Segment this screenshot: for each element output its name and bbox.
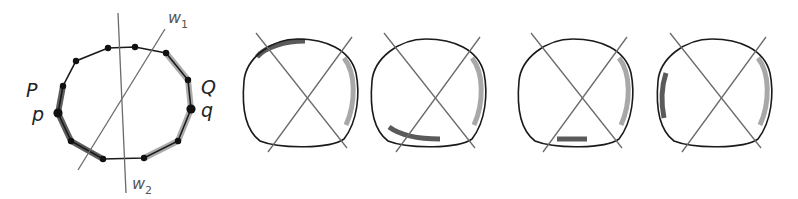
cross-line-a bbox=[670, 33, 761, 148]
vertex bbox=[100, 156, 106, 162]
arc-light bbox=[472, 58, 481, 125]
blob-outline bbox=[518, 39, 632, 147]
blob-outline bbox=[371, 39, 485, 147]
cross-line-b bbox=[268, 37, 352, 152]
panel-4 bbox=[657, 33, 771, 152]
line-w1 bbox=[78, 29, 165, 170]
vertex-q bbox=[186, 104, 195, 113]
arc-dark bbox=[662, 73, 666, 118]
cross-line-b bbox=[396, 37, 480, 152]
label-p: p bbox=[31, 103, 44, 125]
vertex bbox=[141, 155, 147, 161]
label-P: P bbox=[26, 79, 38, 101]
arc-light bbox=[619, 58, 628, 125]
label-w1: w bbox=[168, 8, 182, 27]
panel-3 bbox=[518, 33, 632, 152]
vertex bbox=[185, 77, 191, 83]
vertex bbox=[132, 44, 138, 50]
highlight-left-dark bbox=[58, 86, 103, 159]
label-Q: Q bbox=[201, 76, 216, 98]
panel-2 bbox=[371, 33, 485, 152]
vertex-p bbox=[53, 108, 62, 117]
label-q: q bbox=[201, 99, 213, 121]
cross-line-a bbox=[256, 33, 347, 148]
vertex bbox=[68, 138, 74, 144]
vertex bbox=[73, 58, 79, 64]
figure: P p Q q w 1 w 2 bbox=[0, 0, 798, 199]
cross-line-a bbox=[531, 33, 622, 148]
panel-1 bbox=[243, 33, 357, 152]
arc-light bbox=[758, 58, 767, 125]
label-w1-sub: 1 bbox=[181, 18, 188, 31]
label-w2: w bbox=[132, 174, 146, 193]
arc-dark bbox=[389, 127, 440, 139]
arc-light bbox=[344, 58, 353, 125]
vertex bbox=[60, 83, 66, 89]
vertex bbox=[105, 45, 111, 51]
label-w2-sub: 2 bbox=[145, 184, 152, 197]
cross-line-b bbox=[543, 37, 627, 152]
vertex bbox=[175, 138, 181, 144]
cross-line-b bbox=[682, 37, 766, 152]
vertex bbox=[163, 50, 169, 56]
panel-polygon: P p Q q w 1 w 2 bbox=[26, 8, 216, 197]
highlight-right-light bbox=[144, 53, 191, 158]
blob-outline bbox=[657, 39, 771, 147]
